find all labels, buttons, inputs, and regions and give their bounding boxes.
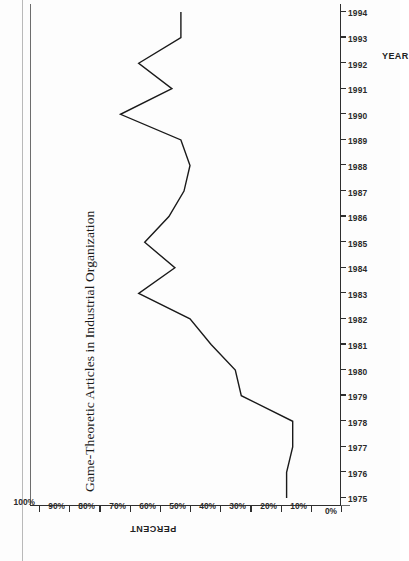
x-tick-label-1988: 1988 [348, 162, 367, 172]
y-tick-100 [39, 506, 40, 512]
x-tick-label-1981: 1981 [348, 341, 367, 351]
x-tick-label-1980: 1980 [348, 367, 367, 377]
page-margin-rule [22, 0, 23, 561]
x-tick-label-1984: 1984 [348, 264, 367, 274]
y-tick-10 [311, 506, 312, 512]
x-tick-label-1976: 1976 [348, 469, 367, 479]
x-tick-label-1989: 1989 [348, 136, 367, 146]
y-tick-60 [160, 506, 161, 512]
y-tick-label-0: 0% [325, 506, 337, 516]
x-axis-title: YEAR [382, 51, 409, 61]
y-tick-30 [250, 506, 251, 512]
x-tick-label-1992: 1992 [348, 60, 367, 70]
plot-region: 1975197619771978197919801981198219831984… [30, 4, 350, 506]
data-series [30, 4, 350, 506]
y-axis-title: PERCENT [130, 524, 177, 534]
x-tick-label-1991: 1991 [348, 85, 367, 95]
chart-area: 1975197619771978197919801981198219831984… [30, 4, 350, 506]
x-tick-label-1975: 1975 [348, 495, 367, 505]
y-tick-0 [341, 506, 342, 512]
x-tick-label-1993: 1993 [348, 34, 367, 44]
y-tick-80 [99, 506, 100, 512]
x-tick-label-1986: 1986 [348, 213, 367, 223]
y-tick-70 [130, 506, 131, 512]
y-tick-20 [281, 506, 282, 512]
x-tick-label-1985: 1985 [348, 239, 367, 249]
x-tick-label-1982: 1982 [348, 315, 367, 325]
y-tick-90 [69, 506, 70, 512]
x-tick-label-1977: 1977 [348, 443, 367, 453]
x-tick-label-1983: 1983 [348, 290, 367, 300]
x-tick-label-1978: 1978 [348, 418, 367, 428]
y-tick-40 [220, 506, 221, 512]
x-tick-label-1994: 1994 [348, 9, 367, 19]
y-tick-50 [190, 506, 191, 512]
x-tick-label-1987: 1987 [348, 188, 367, 198]
series-polyline [121, 12, 293, 498]
x-tick-label-1979: 1979 [348, 392, 367, 402]
x-tick-label-1990: 1990 [348, 111, 367, 121]
